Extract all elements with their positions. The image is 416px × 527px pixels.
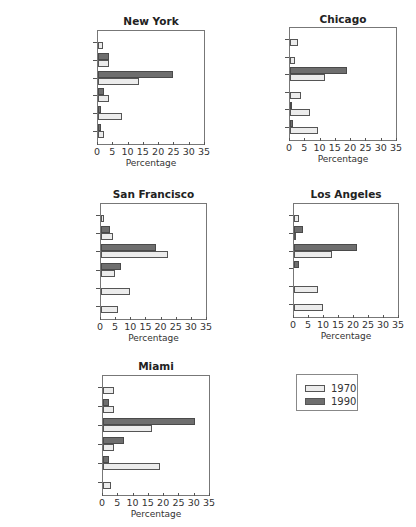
category-tick xyxy=(285,127,289,128)
x-tick xyxy=(158,142,159,145)
legend-item-1990: 1990 xyxy=(305,396,356,407)
x-tick xyxy=(204,142,205,145)
bar-1970 xyxy=(290,39,298,46)
category-tick xyxy=(285,57,289,58)
x-axis-title: Percentage xyxy=(100,333,207,343)
x-tick xyxy=(112,142,113,145)
x-tick xyxy=(304,138,305,141)
chart-title: Chicago xyxy=(289,13,397,25)
bar-1990 xyxy=(98,124,101,131)
x-tick xyxy=(133,493,134,496)
category-tick xyxy=(96,288,100,289)
bar-1990 xyxy=(103,418,195,425)
x-axis-title: Percentage xyxy=(102,509,210,519)
bar-1970 xyxy=(98,95,109,102)
category-tick xyxy=(289,215,293,216)
bar-1990 xyxy=(103,437,124,444)
legend-swatch-1970 xyxy=(305,385,325,392)
bar-1970 xyxy=(101,233,113,240)
legend-item-1970: 1970 xyxy=(305,383,356,394)
bar-1970 xyxy=(101,215,104,222)
category-tick xyxy=(96,233,100,234)
x-tick xyxy=(161,317,162,320)
x-tick xyxy=(128,142,129,145)
category-tick xyxy=(96,251,100,252)
bar-1970 xyxy=(290,74,325,81)
x-tick xyxy=(293,315,294,318)
bar-1970 xyxy=(101,270,115,277)
bar-1970 xyxy=(294,286,318,293)
bar-1970 xyxy=(98,42,103,49)
x-axis-title: Percentage xyxy=(289,154,397,164)
chart-title: Miami xyxy=(102,360,210,372)
category-tick xyxy=(98,463,102,464)
x-tick xyxy=(368,315,369,318)
bar-1990 xyxy=(98,53,109,60)
bar-1970 xyxy=(103,482,111,489)
x-tick xyxy=(97,142,98,145)
x-tick xyxy=(102,493,103,496)
category-tick xyxy=(289,251,293,252)
x-tick xyxy=(194,493,195,496)
x-tick xyxy=(381,138,382,141)
x-tick-label: 35 xyxy=(388,319,408,330)
x-tick xyxy=(115,317,116,320)
category-tick xyxy=(285,39,289,40)
x-tick xyxy=(350,138,351,141)
category-tick xyxy=(98,387,102,388)
chart-title: Los Angeles xyxy=(293,188,399,200)
bar-1970 xyxy=(98,131,104,138)
category-tick xyxy=(93,131,97,132)
bar-1990 xyxy=(290,120,293,127)
category-tick xyxy=(93,42,97,43)
bar-1970 xyxy=(290,92,301,99)
category-tick xyxy=(285,109,289,110)
bar-1990 xyxy=(290,102,292,109)
bar-1990 xyxy=(294,261,299,268)
category-tick xyxy=(93,113,97,114)
x-tick xyxy=(209,493,210,496)
legend-label-1970: 1970 xyxy=(331,383,356,394)
x-tick xyxy=(148,493,149,496)
bar-1990 xyxy=(294,244,357,251)
x-tick xyxy=(206,317,207,320)
category-tick xyxy=(98,425,102,426)
x-tick xyxy=(323,315,324,318)
x-tick xyxy=(396,138,397,141)
category-tick xyxy=(289,286,293,287)
legend: 1970 1990 xyxy=(296,374,358,411)
x-tick xyxy=(365,138,366,141)
bar-1990 xyxy=(98,106,101,113)
x-tick-label: 35 xyxy=(199,497,219,508)
category-tick xyxy=(285,92,289,93)
bar-1970 xyxy=(290,127,318,134)
x-axis-title: Percentage xyxy=(293,331,399,341)
category-tick xyxy=(289,233,293,234)
category-tick xyxy=(289,268,293,269)
bar-1990 xyxy=(103,456,109,463)
x-tick xyxy=(383,315,384,318)
x-tick xyxy=(398,315,399,318)
bar-1970 xyxy=(103,463,160,470)
x-tick xyxy=(335,138,336,141)
x-tick-label: 35 xyxy=(196,321,216,332)
bar-1970 xyxy=(103,444,114,451)
category-tick xyxy=(93,60,97,61)
category-tick xyxy=(98,406,102,407)
bar-1990 xyxy=(101,226,110,233)
x-tick-label: 35 xyxy=(386,142,406,153)
bar-1970 xyxy=(103,406,114,413)
x-tick xyxy=(178,493,179,496)
plot-area xyxy=(97,30,205,145)
bar-1990 xyxy=(101,263,121,270)
bar-1990 xyxy=(98,71,173,78)
x-tick xyxy=(145,317,146,320)
bar-1970 xyxy=(103,387,114,394)
x-tick xyxy=(191,317,192,320)
bar-1970 xyxy=(294,215,299,222)
category-tick xyxy=(98,482,102,483)
x-tick xyxy=(143,142,144,145)
x-tick-label: 35 xyxy=(194,146,214,157)
bar-1990 xyxy=(101,244,156,251)
x-tick xyxy=(289,138,290,141)
